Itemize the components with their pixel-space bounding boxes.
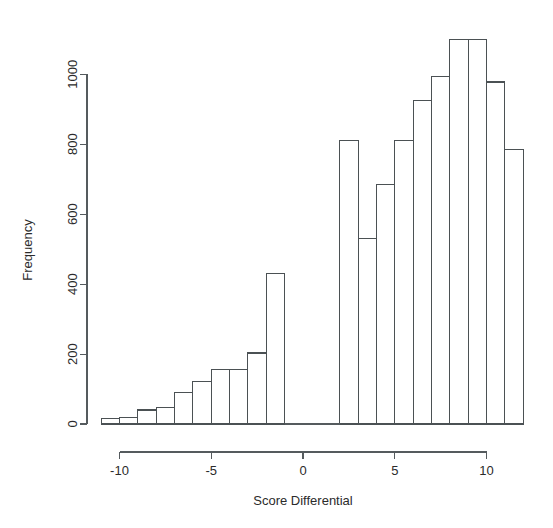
histogram-bar	[101, 419, 119, 424]
histogram-bar	[413, 101, 431, 424]
histogram-bar	[120, 418, 138, 424]
x-tick-label: 5	[391, 463, 398, 478]
x-tick-label: 0	[299, 463, 306, 478]
y-tick-label: 800	[65, 133, 80, 155]
histogram-bar	[156, 407, 174, 424]
y-tick-label: 0	[65, 420, 80, 427]
histogram-bar	[230, 369, 248, 424]
x-axis	[120, 452, 487, 459]
y-tick-label: 400	[65, 273, 80, 295]
y-tick-label: 200	[65, 343, 80, 365]
y-axis-line	[80, 74, 87, 424]
x-axis-title: Score Differential	[253, 493, 353, 508]
x-tick-label: -5	[205, 463, 217, 478]
histogram-bar	[266, 274, 284, 424]
x-tick-labels: -10-50510	[110, 463, 494, 478]
histogram-bar	[487, 82, 505, 424]
histogram-plot-panel: 02004006008001000 -10-50510 Frequency Sc…	[0, 0, 553, 528]
histogram-bar	[358, 239, 376, 424]
histogram-bar	[340, 141, 358, 424]
histogram-bar	[193, 381, 211, 424]
x-tick-label: -10	[110, 463, 129, 478]
histogram-bar	[376, 184, 394, 424]
y-tick-labels: 02004006008001000	[65, 60, 80, 428]
y-tick-label: 600	[65, 203, 80, 225]
y-axis	[80, 74, 87, 424]
histogram-bar	[468, 39, 486, 424]
histogram-bar	[505, 149, 523, 424]
histogram-bars-group	[101, 39, 523, 424]
histogram-bar	[431, 76, 449, 424]
y-axis-title: Frequency	[20, 219, 35, 281]
y-tick-label: 1000	[65, 60, 80, 89]
x-tick-label: 10	[479, 463, 493, 478]
x-axis-line	[120, 452, 487, 459]
histogram-bar	[450, 39, 468, 424]
histogram-bar	[395, 140, 413, 424]
histogram-chart: 02004006008001000 -10-50510 Frequency Sc…	[0, 0, 553, 528]
histogram-bar	[175, 393, 193, 424]
histogram-bar	[248, 353, 266, 424]
histogram-bar	[211, 370, 229, 424]
histogram-bar	[138, 410, 156, 424]
